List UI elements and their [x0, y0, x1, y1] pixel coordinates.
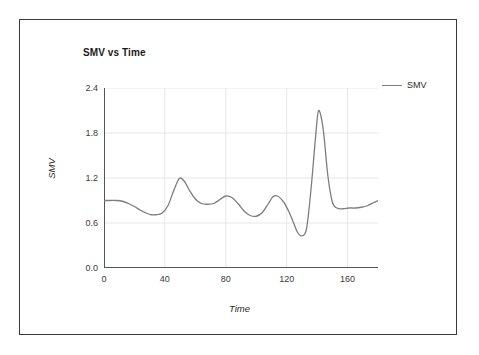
legend-line-swatch-smv [382, 85, 402, 86]
chart-plot-svg [104, 88, 378, 268]
y-tick-label: 2.4 [68, 83, 98, 93]
chart-title: SMV vs Time [83, 47, 146, 58]
x-tick-label: 40 [160, 274, 170, 284]
chart-legend: SMV [382, 80, 427, 90]
x-tick-label: 120 [279, 274, 294, 284]
y-tick-label: 1.8 [68, 128, 98, 138]
legend-label-smv: SMV [407, 80, 427, 90]
x-axis-title: Time [0, 303, 479, 314]
y-tick-label: 0.6 [68, 218, 98, 228]
y-tick-label: 1.2 [68, 173, 98, 183]
series-line-smv [104, 110, 378, 235]
plot-area [104, 88, 378, 268]
x-tick-label: 80 [221, 274, 231, 284]
y-tick-label: 0.0 [68, 263, 98, 273]
y-axis-title: SMV [46, 158, 57, 179]
x-tick-label: 0 [101, 274, 106, 284]
x-tick-label: 160 [340, 274, 355, 284]
